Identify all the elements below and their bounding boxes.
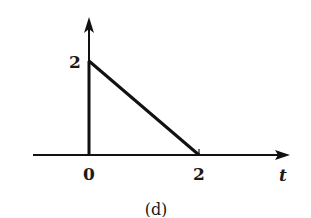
signal-plot — [0, 0, 311, 217]
signal-ramp — [89, 61, 199, 155]
x-axis-label: t — [279, 165, 287, 185]
figure-caption: (d) — [145, 200, 168, 218]
x-tick-label-0: 0 — [83, 164, 95, 184]
x-tick-label-2: 2 — [193, 164, 205, 184]
y-tick-label-2: 2 — [69, 52, 81, 72]
